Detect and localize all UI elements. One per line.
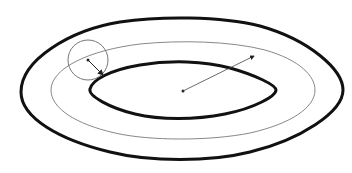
diagram-canvas bbox=[0, 0, 352, 173]
small-circle-radius-arrow bbox=[88, 60, 103, 75]
outer-curve bbox=[21, 18, 343, 160]
nested-curves-diagram bbox=[0, 0, 352, 173]
